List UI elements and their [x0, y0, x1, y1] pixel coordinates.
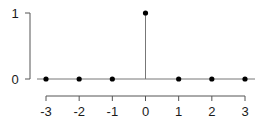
stem-marker [77, 76, 82, 81]
y-axis: 01 [11, 6, 30, 87]
x-tick-label: 0 [142, 104, 149, 119]
stem-marker [242, 76, 247, 81]
stem-marker [143, 10, 148, 15]
x-tick-label: -2 [73, 104, 85, 119]
stems [43, 10, 247, 81]
y-tick-label: 0 [11, 72, 18, 87]
x-tick-label: 2 [208, 104, 215, 119]
stem-plot: 01 -3-2-10123 [0, 0, 263, 127]
stem-marker [209, 76, 214, 81]
x-tick-label: 1 [175, 104, 182, 119]
stem-marker [110, 76, 115, 81]
x-tick-label: -3 [40, 104, 52, 119]
y-tick-label: 1 [11, 6, 18, 21]
stem-marker [176, 76, 181, 81]
x-axis: -3-2-10123 [40, 96, 248, 119]
x-tick-label: -1 [107, 104, 119, 119]
x-tick-label: 3 [241, 104, 248, 119]
stem-marker [43, 76, 48, 81]
